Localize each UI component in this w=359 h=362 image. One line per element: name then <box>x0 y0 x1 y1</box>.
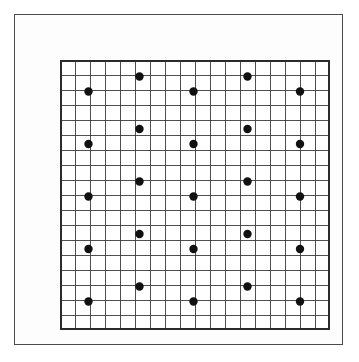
lattice-dot <box>296 297 304 305</box>
lattice-dot <box>135 230 143 238</box>
lattice-dot <box>189 297 197 305</box>
lattice-dot <box>243 72 251 80</box>
lattice-dot <box>296 192 304 200</box>
lattice-dot <box>135 282 143 290</box>
lattice-dot <box>189 87 197 95</box>
grid-panel <box>60 60 330 330</box>
lattice-dot <box>189 192 197 200</box>
lattice-dot <box>135 125 143 133</box>
outer-frame <box>14 14 343 345</box>
lattice-dot <box>189 140 197 148</box>
lattice-dot <box>84 192 92 200</box>
lattice-dot <box>296 140 304 148</box>
lattice-dot <box>84 87 92 95</box>
lattice-dot <box>135 72 143 80</box>
figure-root <box>0 0 359 362</box>
lattice-dot <box>189 245 197 253</box>
lattice-dot <box>84 245 92 253</box>
lattice-grid-svg <box>60 60 330 330</box>
lattice-dot <box>296 245 304 253</box>
figure-plate <box>15 15 342 344</box>
lattice-dots-group <box>84 72 304 305</box>
lattice-dot <box>84 297 92 305</box>
lattice-dot <box>243 125 251 133</box>
lattice-dot <box>135 177 143 185</box>
lattice-dot <box>243 230 251 238</box>
lattice-dot <box>243 177 251 185</box>
lattice-dot <box>243 282 251 290</box>
lattice-dot <box>84 140 92 148</box>
lattice-dot <box>296 87 304 95</box>
